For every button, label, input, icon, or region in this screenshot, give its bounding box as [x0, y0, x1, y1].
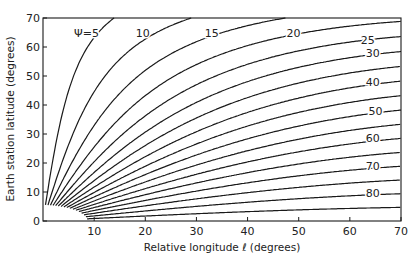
curve-label: 15 [205, 27, 219, 40]
psi-curve-25 [56, 37, 401, 206]
x-tick-label: 30 [189, 225, 203, 238]
y-tick-label: 70 [26, 12, 40, 25]
psi-curve-85 [87, 207, 400, 218]
chart-canvas: Ψ=510152025304050607080 1020304050607001… [0, 0, 411, 257]
psi-curve-75 [84, 180, 400, 215]
curve-label: 60 [366, 132, 380, 145]
y-tick-label: 60 [26, 41, 40, 54]
psi-curve-55 [73, 124, 400, 209]
y-tick-label: 30 [26, 128, 40, 141]
curve-label: 10 [136, 27, 150, 40]
y-tick-label: 0 [33, 215, 40, 228]
curve-label: 50 [368, 105, 382, 118]
y-tick-label: 10 [26, 186, 40, 199]
x-tick-label: 70 [394, 225, 408, 238]
psi-curve-10 [48, 18, 191, 205]
psi-curves [46, 18, 402, 219]
curve-label: 20 [287, 27, 301, 40]
x-tick-label: 20 [138, 225, 152, 238]
psi-curve-45 [67, 96, 401, 208]
y-tick-label: 50 [26, 70, 40, 83]
curve-label: 80 [366, 187, 380, 200]
curve-labels: Ψ=510152025304050607080 [74, 27, 382, 201]
y-tick-label: 20 [26, 157, 40, 170]
y-axis-title: Earth station latitude (degrees) [4, 36, 16, 201]
curve-label: 30 [366, 47, 380, 60]
x-tick-label: 10 [87, 225, 101, 238]
curve-label: 25 [361, 34, 375, 47]
curve-label: 40 [366, 76, 380, 89]
x-tick-label: 40 [241, 225, 255, 238]
curve-label: 70 [366, 160, 380, 173]
x-tick-label: 50 [292, 225, 306, 238]
x-tick-label: 60 [343, 225, 357, 238]
curve-label: Ψ=5 [74, 27, 99, 40]
psi-curve-20 [53, 21, 401, 205]
y-tick-label: 40 [26, 99, 40, 112]
x-axis-title: Relative longitude ℓ (degrees) [144, 241, 301, 253]
